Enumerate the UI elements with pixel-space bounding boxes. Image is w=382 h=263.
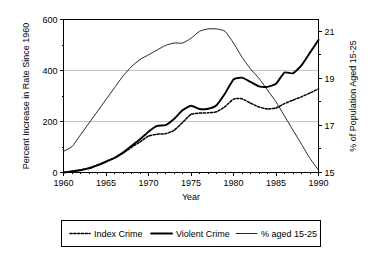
y2-tick-label: 19 xyxy=(325,74,335,84)
legend-item[interactable]: Violent Crime xyxy=(151,229,230,239)
y2-tick-label: 21 xyxy=(325,27,335,37)
legend-item-label: Index Crime xyxy=(94,229,143,239)
axis-titles: YearPercent Increase in Rate Since 1960%… xyxy=(21,23,358,202)
x-tick-label: 1960 xyxy=(53,178,73,188)
legend-item[interactable]: % aged 15-25 xyxy=(236,229,317,239)
x-tick-label: 1975 xyxy=(181,178,201,188)
y2-tick-label: 15 xyxy=(325,168,335,178)
series-line-index-crime xyxy=(64,89,319,173)
line-chart: 1960196519701975198019851990 0200400600 … xyxy=(0,0,382,263)
data-series xyxy=(64,29,319,173)
y2-tick-label: 17 xyxy=(325,121,335,131)
chart-legend: Index CrimeViolent Crime% aged 15-25 xyxy=(62,221,321,247)
y-tick-label: 600 xyxy=(42,15,57,25)
y2-axis-title: % of Population Aged 15-25 xyxy=(348,40,358,152)
x-tick-label: 1990 xyxy=(308,178,328,188)
x-axis-ticks: 1960196519701975198019851990 xyxy=(53,173,328,188)
chart-container: 1960196519701975198019851990 0200400600 … xyxy=(0,0,382,263)
x-tick-label: 1970 xyxy=(138,178,158,188)
y-tick-label: 200 xyxy=(42,117,57,127)
y-tick-label: 0 xyxy=(52,168,57,178)
legend-item-label: Violent Crime xyxy=(176,229,230,239)
x-tick-label: 1985 xyxy=(266,178,286,188)
x-tick-label: 1965 xyxy=(96,178,116,188)
y-tick-label: 400 xyxy=(42,66,57,76)
series-line-aged-15-25 xyxy=(64,29,319,170)
y-axis-left-ticks: 0200400600 xyxy=(42,15,63,178)
legend-item-label: % aged 15-25 xyxy=(261,229,317,239)
x-axis-title: Year xyxy=(182,192,200,202)
plot-frame xyxy=(64,20,319,173)
y-axis-title: Percent Increase in Rate Since 1960 xyxy=(21,23,31,170)
legend-item[interactable]: Index Crime xyxy=(70,229,143,239)
x-tick-label: 1980 xyxy=(223,178,243,188)
y-axis-right-ticks: 15171921 xyxy=(319,27,335,178)
